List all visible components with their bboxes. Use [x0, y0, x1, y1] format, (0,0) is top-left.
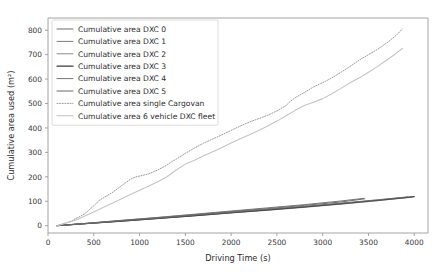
legend-label-1: Cumulative area DXC 1: [78, 37, 166, 46]
legend-label-2: Cumulative area DXC 2: [78, 50, 166, 59]
y-tick-label: 100: [28, 197, 42, 206]
legend-label-0: Cumulative area DXC 0: [78, 25, 166, 34]
y-tick-label: 600: [28, 75, 42, 84]
x-tick-label: 2000: [222, 238, 241, 247]
y-tick-label: 300: [28, 148, 42, 157]
legend-label-4: Cumulative area DXC 4: [78, 74, 166, 83]
y-tick-label: 500: [28, 99, 42, 108]
y-tick-label: 700: [28, 50, 42, 59]
x-tick-label: 0: [46, 238, 51, 247]
y-tick-label: 200: [28, 173, 42, 182]
x-axis-title: Driving Time (s): [205, 253, 270, 263]
legend-label-3: Cumulative area DXC 3: [78, 62, 166, 71]
y-tick-label: 0: [37, 221, 42, 230]
chart-legend: Cumulative area DXC 0Cumulative area DXC…: [52, 20, 218, 125]
x-tick-label: 4000: [405, 238, 424, 247]
legend-frame: [52, 20, 218, 125]
y-axis-title: Cumulative area used (m²): [6, 70, 16, 180]
x-tick-label: 500: [87, 238, 101, 247]
x-tick-label: 2500: [268, 238, 287, 247]
legend-label-5: Cumulative area DXC 5: [78, 87, 166, 96]
y-tick-label: 800: [28, 26, 42, 35]
line-chart: 05001000150020002500300035004000 0100200…: [0, 0, 448, 280]
x-tick-label: 1000: [130, 238, 149, 247]
legend-label-7: Cumulative area 6 vehicle DXC fleet: [78, 112, 215, 121]
legend-label-6: Cumulative area single Cargovan: [78, 99, 205, 108]
x-tick-label: 3500: [359, 238, 378, 247]
y-tick-label: 400: [28, 124, 42, 133]
chart-figure: 05001000150020002500300035004000 0100200…: [0, 0, 448, 280]
x-tick-label: 1500: [176, 238, 195, 247]
x-tick-label: 3000: [313, 238, 332, 247]
